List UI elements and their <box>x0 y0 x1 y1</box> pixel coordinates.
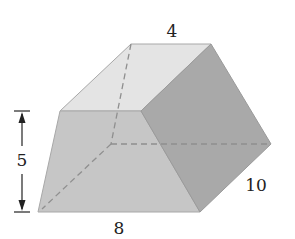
arrow-up-icon <box>19 112 26 123</box>
label-bottom-edge: 8 <box>114 218 125 238</box>
label-height: 5 <box>17 150 28 170</box>
label-top-edge: 4 <box>167 21 178 41</box>
trapezoidal-prism-diagram: 4 5 8 10 <box>0 0 295 239</box>
arrow-down-icon <box>19 200 26 211</box>
label-depth: 10 <box>245 175 267 195</box>
